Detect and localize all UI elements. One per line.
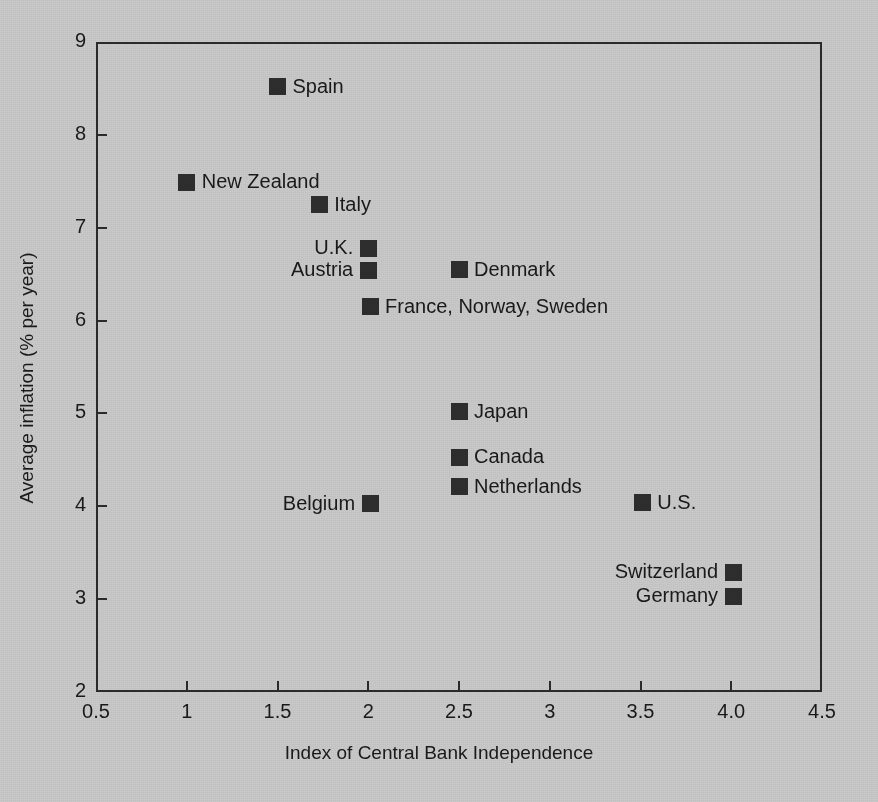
data-point-marker[interactable] [362,495,379,512]
data-point-label: Netherlands [474,476,582,496]
x-axis-tick-label: 1 [147,700,227,723]
y-axis-tick [96,505,107,507]
y-axis-tick-label: 9 [46,29,86,52]
data-point-marker[interactable] [451,449,468,466]
y-axis-tick [96,320,107,322]
y-axis-tick [96,227,107,229]
data-point-label: Japan [474,401,529,421]
data-point-marker[interactable] [360,240,377,257]
x-axis-tick [186,681,188,692]
data-point-marker[interactable] [451,478,468,495]
data-point-marker[interactable] [725,564,742,581]
x-axis-title: Index of Central Bank Independence [0,742,878,764]
y-axis-tick [96,412,107,414]
y-axis-title: Average inflation (% per year) [16,228,38,528]
data-point-label: Germany [636,585,718,605]
x-axis-tick [640,681,642,692]
data-point-label: Switzerland [615,561,718,581]
data-point-label: Austria [291,259,353,279]
data-point-marker[interactable] [362,298,379,315]
data-point-marker[interactable] [725,588,742,605]
data-point-label: Italy [334,194,371,214]
data-point-label: New Zealand [202,171,320,191]
x-axis-tick [277,681,279,692]
data-point-label: Belgium [283,493,355,513]
y-axis-tick-label: 5 [46,400,86,423]
data-point-label: France, Norway, Sweden [385,296,608,316]
scatter-chart-figure: 0.511.522.533.54.04.5 23456789 SpainNew … [0,0,878,802]
y-axis-tick [96,134,107,136]
data-point-label: Denmark [474,259,555,279]
x-axis-tick-label: 2 [328,700,408,723]
x-axis-tick [458,681,460,692]
y-axis-tick [96,598,107,600]
x-axis-tick-label: 1.5 [238,700,318,723]
data-point-marker[interactable] [634,494,651,511]
y-axis-tick-label: 6 [46,308,86,331]
data-point-marker[interactable] [269,78,286,95]
data-point-label: Spain [293,76,344,96]
data-point-marker[interactable] [451,403,468,420]
data-point-marker[interactable] [451,261,468,278]
y-axis-tick-label: 7 [46,215,86,238]
x-axis-tick-label: 3.5 [601,700,681,723]
data-point-marker[interactable] [311,196,328,213]
data-point-marker[interactable] [360,262,377,279]
x-axis-tick [549,681,551,692]
x-axis-tick-label: 4.0 [691,700,771,723]
data-point-label: U.K. [314,237,353,257]
y-axis-tick-label: 2 [46,679,86,702]
data-point-label: Canada [474,446,544,466]
y-axis-tick-label: 3 [46,586,86,609]
x-axis-tick [730,681,732,692]
x-axis-tick-label: 0.5 [56,700,136,723]
y-axis-tick-label: 4 [46,493,86,516]
x-axis-tick-label: 4.5 [782,700,862,723]
data-point-label: U.S. [657,492,696,512]
data-point-marker[interactable] [178,174,195,191]
y-axis-tick-label: 8 [46,122,86,145]
x-axis-tick-label: 3 [510,700,590,723]
x-axis-tick-label: 2.5 [419,700,499,723]
x-axis-tick [367,681,369,692]
